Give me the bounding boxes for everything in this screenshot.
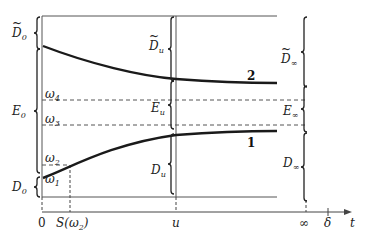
tick-s-omega2: S(ω2) xyxy=(56,216,89,232)
curve-2-label: 2 xyxy=(247,69,255,83)
label-d-0: D0 xyxy=(11,180,27,196)
tick-u: u xyxy=(172,216,180,230)
label-dtilde-inf: D∞ xyxy=(280,52,297,68)
label-omega3: ω3 xyxy=(45,112,60,128)
omega-levels xyxy=(42,100,305,165)
label-e-inf: E∞ xyxy=(282,104,298,120)
labels-zero: D0 ~ E0 D0 xyxy=(11,16,27,196)
time-axis xyxy=(42,165,352,216)
axis-labels: 0 S(ω2) u ∞ δ t xyxy=(38,216,355,232)
label-d-inf: D∞ xyxy=(282,156,299,172)
braces-zero xyxy=(34,17,40,197)
labels-infinity: ~ D∞ E∞ D∞ xyxy=(280,42,299,172)
phase-diagram: D0 ~ E0 D0 ω4 ω3 ω2 ω1 ~ Du Eu Du ~ D∞ E… xyxy=(0,0,370,242)
label-e-u: Eu xyxy=(150,101,165,117)
label-dtilde-u: Du xyxy=(148,39,164,55)
svg-text:~: ~ xyxy=(12,16,22,30)
axis-variable-t: t xyxy=(350,216,355,230)
curve-1-label: 1 xyxy=(247,136,255,150)
tick-delta: δ xyxy=(324,216,331,230)
label-omega2: ω2 xyxy=(45,151,60,167)
label-d-u: Du xyxy=(150,163,166,179)
label-omega4: ω4 xyxy=(45,87,60,103)
labels-u: ~ Du Eu Du xyxy=(148,29,166,179)
label-e-0: E0 xyxy=(11,104,26,120)
axis-arrow-icon xyxy=(344,209,352,215)
tick-zero: 0 xyxy=(38,216,46,230)
tick-infinity: ∞ xyxy=(299,216,309,230)
braces-infinity xyxy=(301,17,307,201)
label-omega1: ω1 xyxy=(45,172,60,188)
braces-u xyxy=(168,17,174,194)
